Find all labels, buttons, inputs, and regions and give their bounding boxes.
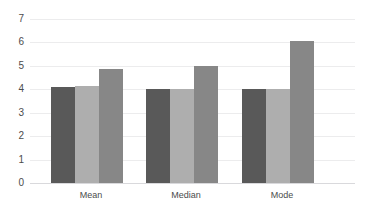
y-axis-tick-2: 2: [0, 131, 24, 141]
bar-mode-series-3: [290, 41, 314, 183]
y-axis-tick-4: 4: [0, 84, 24, 94]
bar-mean-series-1: [51, 87, 75, 183]
bar-mean-series-3: [99, 69, 123, 183]
bar-chart: 7 6 5 4 3 2 1 0 Mean Median Mode: [0, 0, 369, 222]
y-axis-tick-3: 3: [0, 108, 24, 118]
gridline-7: [30, 19, 355, 20]
y-axis-tick-1: 1: [0, 155, 24, 165]
chart-title: [0, 0, 369, 3]
plot-area: [30, 19, 355, 183]
y-axis-tick-6: 6: [0, 37, 24, 47]
bar-mean-series-2: [75, 86, 99, 183]
bar-median-series-2: [170, 89, 194, 183]
bar-mode-series-1: [242, 89, 266, 183]
axis-baseline: [30, 183, 355, 184]
y-axis-tick-0: 0: [0, 178, 24, 188]
y-axis-tick-7: 7: [0, 14, 24, 24]
y-axis-tick-5: 5: [0, 61, 24, 71]
x-axis-label-median: Median: [140, 190, 232, 201]
x-axis-label-mean: Mean: [45, 190, 137, 201]
bar-median-series-1: [146, 89, 170, 183]
bar-median-series-3: [194, 66, 218, 183]
x-axis-label-mode: Mode: [236, 190, 328, 201]
bar-mode-series-2: [266, 89, 290, 183]
